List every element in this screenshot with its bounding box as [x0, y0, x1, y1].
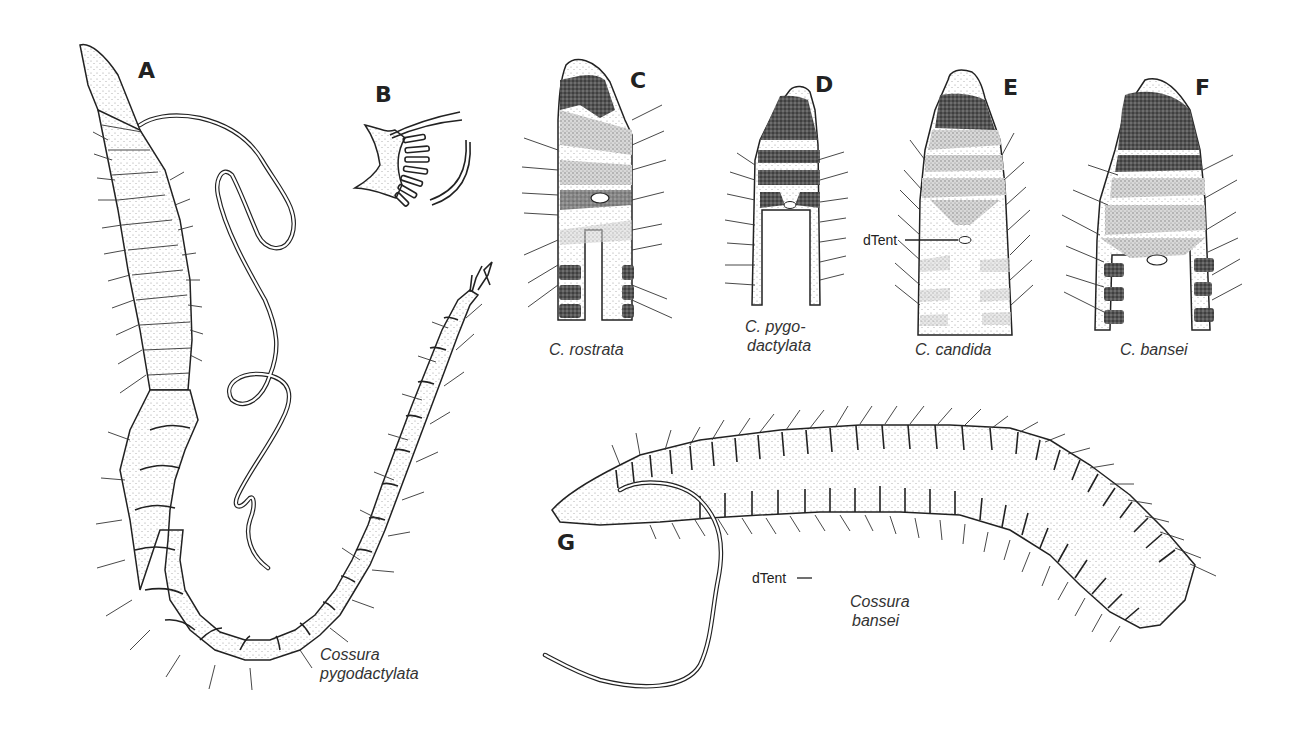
- panel-label-f: F: [1195, 75, 1210, 100]
- panel-a-worm: [80, 45, 492, 690]
- caption-f: C. bansei: [1120, 340, 1188, 359]
- panel-label-b: B: [375, 82, 392, 107]
- panel-f-anterior: [1062, 79, 1242, 330]
- panel-label-a: A: [138, 58, 155, 83]
- panel-d-anterior: [725, 86, 848, 305]
- caption-a-line2: pygodactylata: [320, 664, 419, 683]
- caption-d-line1: C. pygo-: [745, 317, 811, 336]
- caption-g: Cossura bansei: [850, 592, 910, 630]
- caption-g-line2: bansei: [850, 611, 910, 630]
- caption-d: C. pygo- dactylata: [745, 317, 811, 355]
- caption-a: Cossura pygodactylata: [320, 645, 419, 683]
- caption-e: C. candida: [915, 340, 992, 359]
- caption-a-line1: Cossura: [320, 645, 419, 664]
- dtent-callout-e: dTent: [863, 232, 897, 248]
- dtent-callout-g: dTent: [752, 570, 786, 586]
- panel-label-e: E: [1003, 75, 1018, 100]
- caption-g-line1: Cossura: [850, 592, 910, 611]
- panel-g-worm: [545, 406, 1216, 686]
- caption-c: C. rostrata: [549, 340, 624, 359]
- cossura-species-plate: A B C D E F G Cossura pygodactylata C. r…: [0, 0, 1307, 740]
- illustration-canvas: [0, 0, 1307, 740]
- panel-label-d: D: [815, 72, 833, 97]
- panel-label-c: C: [630, 68, 646, 93]
- panel-b-pygidium: [355, 112, 470, 207]
- panel-e-anterior: [895, 70, 1033, 335]
- panel-label-g: G: [557, 530, 575, 555]
- panel-c-anterior: [522, 60, 672, 320]
- caption-d-line2: dactylata: [745, 336, 811, 355]
